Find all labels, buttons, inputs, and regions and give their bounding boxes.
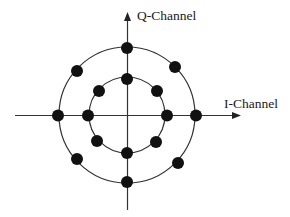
constellation-point	[169, 61, 181, 73]
constellation-point	[93, 85, 105, 97]
constellation-point	[161, 110, 173, 122]
constellation-point	[52, 110, 64, 122]
q-channel-label: Q-Channel	[137, 8, 196, 23]
constellation-point	[151, 85, 163, 97]
constellation-point	[121, 42, 133, 54]
i-axis-arrow-icon	[232, 112, 241, 119]
q-axis-arrow-icon	[124, 12, 131, 21]
constellation-point	[71, 65, 83, 77]
constellation-point	[121, 147, 133, 159]
constellation-diagram: Q-Channel I-Channel	[0, 0, 290, 217]
constellation-point	[121, 73, 133, 85]
constellation-point	[190, 110, 202, 122]
constellation-point	[150, 136, 162, 148]
constellation-point	[82, 110, 94, 122]
i-channel-label: I-Channel	[224, 96, 278, 111]
constellation-point	[121, 176, 133, 188]
constellation-point	[91, 135, 103, 147]
constellation-point	[71, 153, 83, 165]
constellation-point	[172, 157, 184, 169]
